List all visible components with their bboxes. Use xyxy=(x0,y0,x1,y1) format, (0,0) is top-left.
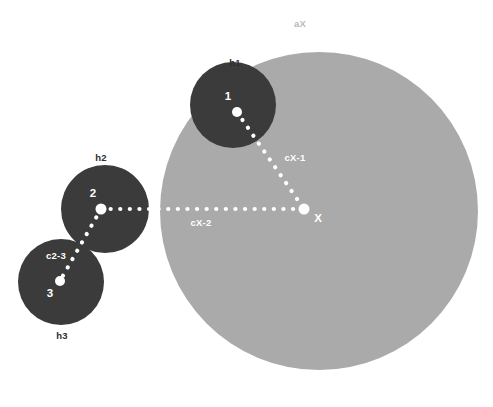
label-node-1: 1 xyxy=(225,90,232,102)
node-dot-2[interactable] xyxy=(96,204,107,215)
label-h3: h3 xyxy=(56,330,68,341)
label-cX-2: cX-2 xyxy=(191,217,212,228)
label-node-3: 3 xyxy=(47,287,53,299)
label-node-2: 2 xyxy=(90,187,96,199)
label-h1: h1 xyxy=(229,57,241,68)
label-c2-3: c2-3 xyxy=(46,250,66,261)
node-dot-1[interactable] xyxy=(232,107,242,117)
circle-h1[interactable] xyxy=(190,62,276,148)
label-cX-1: cX-1 xyxy=(285,152,306,163)
diagram-canvas: aX h1 h2 h3 1 2 3 X cX-1 cX-2 c2-3 xyxy=(0,0,493,407)
label-h2: h2 xyxy=(95,152,107,163)
label-aX: aX xyxy=(294,18,306,29)
circle-diagram: aX h1 h2 h3 1 2 3 X cX-1 cX-2 c2-3 xyxy=(0,0,493,407)
label-node-X: X xyxy=(314,212,322,224)
node-dot-X[interactable] xyxy=(299,204,310,215)
node-dot-3[interactable] xyxy=(55,276,65,286)
